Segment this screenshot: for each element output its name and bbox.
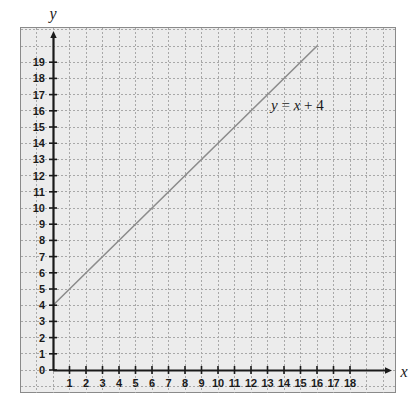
y-tick-label: 3 xyxy=(39,315,45,327)
y-tick-label: 11 xyxy=(33,186,45,198)
x-tick-label: 12 xyxy=(245,377,257,389)
y-tick-label: 7 xyxy=(39,251,45,263)
y-tick-label: 19 xyxy=(33,56,45,68)
x-tick-label: 6 xyxy=(149,377,155,389)
x-axis-label: x xyxy=(399,363,407,380)
line-graph: 123456789101112131415161718 012345678910… xyxy=(0,0,418,405)
x-tick-label: 4 xyxy=(116,377,123,389)
y-axis-label: y xyxy=(47,5,57,23)
y-tick-label: 10 xyxy=(33,202,45,214)
equation-annotation: y = x + 4 xyxy=(269,97,324,113)
y-tick-label: 5 xyxy=(39,283,45,295)
x-tick-label: 1 xyxy=(66,377,72,389)
x-tick-label: 15 xyxy=(294,377,306,389)
y-tick-label: 17 xyxy=(33,89,45,101)
x-tick-label: 13 xyxy=(261,377,273,389)
y-tick-label: 6 xyxy=(39,267,45,279)
x-tick-label: 16 xyxy=(311,377,323,389)
y-tick-label: 16 xyxy=(33,105,45,117)
y-tick-label: 12 xyxy=(33,170,45,182)
y-tick-label: 13 xyxy=(33,153,45,165)
x-tick-label: 9 xyxy=(198,377,204,389)
x-tick-label: 8 xyxy=(182,377,188,389)
y-tick-label: 0 xyxy=(39,364,45,376)
x-tick-label: 10 xyxy=(212,377,224,389)
y-tick-label: 9 xyxy=(39,218,45,230)
y-tick-label: 2 xyxy=(39,332,45,344)
x-tick-label: 18 xyxy=(344,377,356,389)
x-tick-label: 11 xyxy=(229,377,241,389)
x-tick-label: 7 xyxy=(165,377,171,389)
y-tick-label: 8 xyxy=(39,234,45,246)
graph-figure: 123456789101112131415161718 012345678910… xyxy=(0,0,418,405)
y-tick-label: 15 xyxy=(33,121,45,133)
x-tick-label: 5 xyxy=(132,377,138,389)
y-tick-label: 14 xyxy=(33,137,46,149)
x-tick-label: 2 xyxy=(83,377,89,389)
y-tick-label: 4 xyxy=(39,299,46,311)
x-tick-label: 3 xyxy=(99,377,105,389)
x-tick-label: 14 xyxy=(278,377,291,389)
x-tick-label: 17 xyxy=(327,377,339,389)
y-tick-label: 18 xyxy=(33,72,45,84)
y-tick-label: 1 xyxy=(39,348,45,360)
